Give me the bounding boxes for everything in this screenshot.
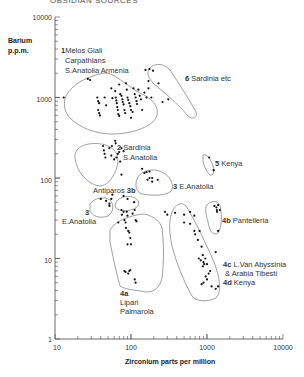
x-tick-1000: 1000 [199, 344, 215, 351]
data-point [110, 155, 112, 157]
data-point [148, 68, 150, 70]
data-point [152, 70, 154, 72]
data-point [201, 246, 203, 248]
data-point [137, 89, 139, 91]
y-ticks [55, 17, 60, 339]
scatter-chart: 10000 1000 100 10 1 10 100 1000 10000 Ba… [0, 0, 304, 377]
data-point [100, 198, 102, 200]
outline-group-2 [75, 144, 118, 186]
data-point [129, 237, 131, 239]
data-point [211, 285, 213, 287]
data-point [140, 98, 142, 100]
label-group-3-west-num: 3 [85, 208, 89, 217]
x-tick-10: 10 [53, 344, 61, 351]
data-point [63, 96, 65, 98]
data-point [161, 101, 163, 103]
data-point [120, 209, 122, 211]
data-point [103, 149, 105, 151]
data-point [164, 211, 166, 213]
data-point [126, 96, 128, 98]
data-point [124, 112, 126, 114]
label-group-5: 5 Kenya [215, 159, 243, 168]
label-group-3-west: E.Anatolia [62, 217, 97, 226]
data-point [120, 95, 122, 97]
data-point [146, 179, 148, 181]
data-point [122, 101, 124, 103]
data-point [126, 198, 128, 200]
data-point [215, 206, 217, 208]
data-point [110, 198, 112, 200]
data-point [183, 221, 185, 223]
y-tick-100: 100 [40, 177, 52, 184]
data-point [143, 92, 145, 94]
data-point [117, 221, 119, 223]
data-point [115, 96, 117, 98]
outline-group-6 [148, 64, 196, 118]
data-point [130, 117, 132, 119]
data-point [126, 243, 128, 245]
outline-group-3 [136, 170, 173, 195]
label-group-4c-line2: & Arabia Tibesti [225, 269, 277, 278]
data-point [183, 214, 185, 216]
outline-group-4a [110, 214, 164, 292]
label-group-4b: 4b Pantelleria [222, 216, 269, 225]
label-group-1-line3: S.Anatolia Armenia [65, 66, 130, 75]
data-point [125, 82, 127, 84]
data-point [197, 239, 199, 241]
data-point [123, 219, 125, 221]
data-point [128, 232, 130, 234]
data-point [136, 103, 138, 105]
data-point [132, 87, 134, 89]
data-point [139, 95, 141, 97]
data-point [123, 195, 125, 197]
data-point [123, 109, 125, 111]
data-point [126, 211, 128, 213]
outline-group-3-west [90, 198, 113, 217]
data-point [105, 104, 107, 106]
outline-group-1 [64, 73, 157, 134]
data-point [134, 209, 136, 211]
y-axis-title-line1: Barium [8, 37, 32, 44]
data-point [217, 204, 219, 206]
data-point [120, 174, 122, 176]
data-point [174, 212, 176, 214]
data-point [143, 172, 145, 174]
data-point [121, 214, 123, 216]
data-point [129, 105, 131, 107]
data-point [141, 168, 143, 170]
data-point [97, 109, 99, 111]
data-point [123, 103, 125, 105]
data-point [98, 102, 100, 104]
data-point [206, 278, 208, 280]
data-point [111, 97, 113, 99]
data-point [135, 282, 137, 284]
label-group-4c: 4c L.Van Abyssinia [223, 260, 287, 269]
data-point [116, 102, 118, 104]
data-point [115, 156, 117, 158]
data-point [205, 275, 207, 277]
x-tick-100: 100 [125, 344, 137, 351]
data-point [201, 283, 203, 285]
data-point [166, 214, 168, 216]
data-point [125, 227, 127, 229]
data-point [126, 215, 128, 217]
data-point [132, 213, 134, 215]
label-group-4a-num: 4a [120, 289, 129, 298]
y-tick-10000: 10000 [33, 14, 53, 21]
data-point [123, 211, 125, 213]
label-group-1: 1Melos Giali [61, 46, 103, 55]
data-point [111, 145, 113, 147]
data-point [119, 161, 121, 163]
data-point [200, 259, 202, 261]
data-point [108, 147, 110, 149]
data-point [127, 99, 129, 101]
data-point [148, 171, 150, 173]
x-tick-10000: 10000 [273, 344, 293, 351]
data-point [157, 82, 159, 84]
label-group-4d: 4d Kenya [223, 278, 256, 287]
label-group-3b: Antiparos 3b [93, 186, 136, 195]
data-points [63, 68, 221, 290]
data-point [110, 87, 112, 89]
data-point [99, 114, 101, 116]
data-point [144, 69, 146, 71]
